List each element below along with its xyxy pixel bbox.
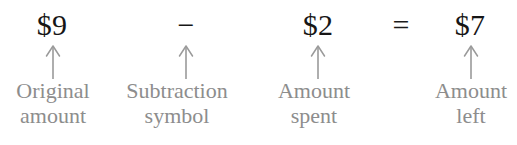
pointer-arrow-icon	[309, 43, 327, 79]
caption-line-1: Subtraction	[120, 78, 234, 103]
caption-line-1: Original	[0, 78, 108, 103]
equation-term-amount-spent: $2	[282, 9, 354, 41]
pointer-arrow-icon	[177, 43, 195, 79]
equation-annotation-figure: $9 − $2 = $7 Original amount Subtra	[0, 0, 517, 145]
pointer-arrow-icon	[44, 43, 62, 79]
equation-term-amount-left: $7	[434, 9, 506, 41]
equals-sign: =	[372, 9, 430, 41]
caption-line-1: Amount	[416, 78, 517, 103]
caption-amount-left: Amount left	[416, 78, 517, 128]
caption-line-1: Amount	[259, 78, 369, 103]
caption-subtraction-symbol: Subtraction symbol	[120, 78, 234, 128]
caption-line-2: spent	[259, 103, 369, 128]
caption-original-amount: Original amount	[0, 78, 108, 128]
equation-term-original-amount: $9	[16, 9, 88, 41]
caption-line-2: amount	[0, 103, 108, 128]
caption-amount-spent: Amount spent	[259, 78, 369, 128]
caption-line-2: left	[416, 103, 517, 128]
caption-line-2: symbol	[120, 103, 234, 128]
pointer-arrow-icon	[462, 43, 480, 79]
equation-term-subtraction-symbol: −	[150, 9, 222, 41]
